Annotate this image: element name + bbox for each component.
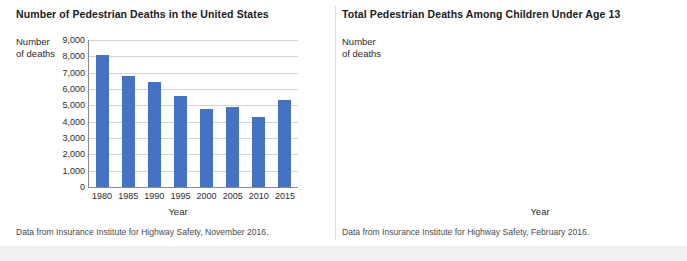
line-chart-y-axis-caption: Number of deaths: [342, 36, 381, 59]
bar-chart-gridline: [89, 89, 298, 90]
bar-chart-gridline: [89, 56, 298, 57]
line-chart-panel: Total Pedestrian Deaths Among Children U…: [336, 0, 687, 246]
bar-chart-gridline: [89, 138, 298, 139]
bar-chart-x-tick-label: 1990: [144, 191, 164, 201]
bar-chart-y-tick-label: 4,000: [62, 117, 85, 127]
bar-chart-y-tick-label: 6,000: [62, 84, 85, 94]
bar-chart-gridline: [89, 40, 298, 41]
bar-chart-x-tick-label: 1980: [92, 191, 112, 201]
bar-chart-source-note: Data from Insurance Institute for Highwa…: [16, 227, 269, 237]
bar-chart-bar: [96, 55, 109, 187]
line-chart-title: Total Pedestrian Deaths Among Children U…: [342, 8, 620, 20]
line-chart-y-axis-caption-line2: of deaths: [342, 48, 381, 59]
bar-chart-y-tick-label: 2,000: [62, 149, 85, 159]
bar-chart-bar: [278, 100, 291, 187]
bar-chart-bar: [200, 109, 213, 187]
bar-chart-bar: [174, 96, 187, 187]
bar-chart-y-tick-label: 1,000: [62, 166, 85, 176]
bar-chart-x-axis-title: Year: [168, 206, 187, 217]
line-chart-y-axis-caption-line1: Number: [342, 36, 376, 47]
two-chart-figure: Number of Pedestrian Deaths in the Unite…: [0, 0, 687, 261]
bar-chart-y-tick-label: 8,000: [62, 51, 85, 61]
figure-bottom-edge: [0, 246, 687, 261]
bar-chart-y-axis-caption-line1: Number: [16, 36, 50, 47]
bar-chart-bar: [122, 76, 135, 187]
bar-chart-panel: Number of Pedestrian Deaths in the Unite…: [0, 0, 336, 246]
bar-chart-x-tick-label: 2000: [197, 191, 217, 201]
bar-chart-x-tick-label: 1985: [118, 191, 138, 201]
bar-chart-plot-area: 9,0008,0007,0006,0005,0004,0003,0002,000…: [88, 40, 298, 188]
bar-chart-gridline: [89, 105, 298, 106]
bar-chart-y-tick-label: 0: [80, 182, 85, 192]
bar-chart-gridline: [89, 122, 298, 123]
bar-chart-y-tick-label: 3,000: [62, 133, 85, 143]
bar-chart-x-tick-label: 2015: [275, 191, 295, 201]
bar-chart-title: Number of Pedestrian Deaths in the Unite…: [16, 8, 269, 20]
bar-chart-x-tick-label: 1995: [170, 191, 190, 201]
bar-chart-x-tick-label: 2005: [223, 191, 243, 201]
bar-chart-bar: [226, 107, 239, 187]
bar-chart-bar: [252, 117, 265, 187]
bar-chart-gridline: [89, 73, 298, 74]
bar-chart-y-axis-caption: Number of deaths: [16, 36, 55, 59]
bar-chart-gridline: [89, 154, 298, 155]
line-chart-source-note: Data from Insurance Institute for Highwa…: [342, 227, 589, 237]
bar-chart-bar: [148, 82, 161, 187]
bar-chart-gridline: [89, 171, 298, 172]
bar-chart-x-tick-label: 2010: [249, 191, 269, 201]
bar-chart-y-tick-label: 9,000: [62, 35, 85, 45]
line-chart-x-axis-title: Year: [530, 206, 549, 217]
bar-chart-y-tick-label: 7,000: [62, 68, 85, 78]
bar-chart-y-tick-label: 5,000: [62, 100, 85, 110]
bar-chart-y-axis-caption-line2: of deaths: [16, 48, 55, 59]
